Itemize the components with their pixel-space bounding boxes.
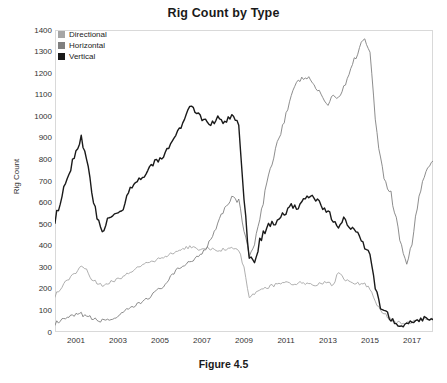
legend-item[interactable]: Vertical bbox=[58, 51, 107, 61]
figure-rig-count-by-type: Rig Count by Type 0100200300400500600700… bbox=[0, 0, 447, 383]
y-axis-tick: 1100 bbox=[4, 90, 52, 99]
legend-item[interactable]: Directional bbox=[58, 29, 107, 39]
y-axis-tick: 400 bbox=[4, 241, 52, 250]
series-line-horizontal bbox=[55, 39, 433, 325]
figure-caption: Figure 4.5 bbox=[0, 358, 447, 370]
x-axis-tick: 2015 bbox=[350, 336, 390, 345]
x-axis-tick: 2005 bbox=[140, 336, 180, 345]
y-axis-title: Rig Count bbox=[12, 147, 21, 207]
legend-item-label: Directional bbox=[69, 30, 107, 39]
x-axis-tick: 2017 bbox=[392, 336, 432, 345]
x-axis-tick: 2007 bbox=[182, 336, 222, 345]
y-axis-tick: 1300 bbox=[4, 47, 52, 56]
legend-swatch-vertical bbox=[58, 53, 65, 60]
legend-item-label: Vertical bbox=[69, 52, 95, 61]
y-axis-tick: 300 bbox=[4, 263, 52, 272]
chart-plot-area bbox=[55, 30, 433, 332]
x-axis-tick: 2001 bbox=[56, 336, 96, 345]
y-axis-tick: 1000 bbox=[4, 112, 52, 121]
y-axis-tick: 200 bbox=[4, 284, 52, 293]
y-axis-tick: 100 bbox=[4, 306, 52, 315]
y-axis-tick: 0 bbox=[4, 328, 52, 337]
legend-swatch-directional bbox=[58, 31, 65, 38]
legend-item-label: Horizontal bbox=[69, 41, 105, 50]
y-axis-tick: 900 bbox=[4, 133, 52, 142]
page-title: Rig Count by Type bbox=[0, 6, 447, 20]
y-axis-tick-group: 0100200300400500600700800900100011001200… bbox=[0, 0, 52, 383]
x-axis-tick: 2009 bbox=[224, 336, 264, 345]
series-line-directional bbox=[55, 246, 433, 325]
y-axis-tick: 500 bbox=[4, 220, 52, 229]
series-line-vertical bbox=[55, 106, 433, 327]
x-axis-tick: 2011 bbox=[266, 336, 306, 345]
chart-legend: DirectionalHorizontalVertical bbox=[58, 29, 107, 61]
y-axis-tick: 1400 bbox=[4, 26, 52, 35]
legend-swatch-horizontal bbox=[58, 42, 65, 49]
legend-item[interactable]: Horizontal bbox=[58, 40, 107, 50]
x-axis-tick: 2003 bbox=[98, 336, 138, 345]
y-axis-tick: 1200 bbox=[4, 69, 52, 78]
x-axis-tick: 2013 bbox=[308, 336, 348, 345]
